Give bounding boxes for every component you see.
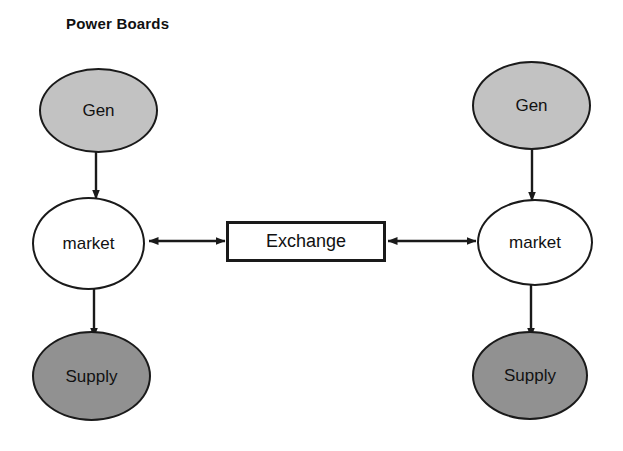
node-gen-right-label: Gen [515,97,547,114]
node-market-left-label: market [63,235,115,252]
node-supply-left-label: Supply [66,368,118,385]
node-gen-right[interactable]: Gen [472,61,591,150]
node-market-left[interactable]: market [32,197,145,290]
node-market-right-label: market [509,234,561,251]
node-gen-left-label: Gen [82,102,114,119]
node-market-right[interactable]: market [477,199,593,286]
node-gen-left[interactable]: Gen [39,68,158,153]
node-exchange[interactable]: Exchange [226,221,386,262]
diagram-canvas: Power Boards [0,0,623,451]
node-supply-left[interactable]: Supply [32,331,151,421]
node-exchange-label: Exchange [266,231,346,252]
node-supply-right-label: Supply [504,367,556,384]
node-supply-right[interactable]: Supply [472,331,588,420]
